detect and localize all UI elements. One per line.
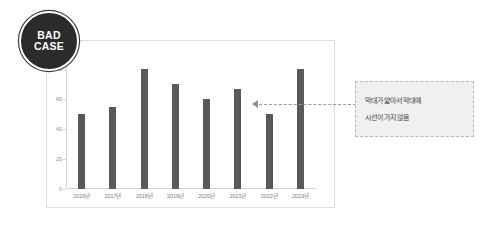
x-tick-label-2018: 2018년 — [129, 192, 160, 200]
bar-2019 — [172, 84, 179, 189]
y-tick-label: 0 — [59, 186, 62, 192]
x-axis-labels: 2016년 2017년 2018년 2019년 2020년 2021년 2022… — [66, 192, 316, 200]
bar-cell — [66, 57, 97, 189]
x-tick-label-2023: 2023년 — [285, 192, 316, 200]
y-tick-label: 40 — [56, 126, 62, 132]
annotation-callout: 막대가 얇아서 막대에 시선이 가지 않음 — [355, 81, 474, 137]
x-tick-label-2017: 2017년 — [97, 192, 128, 200]
x-tick-label-2020: 2020년 — [191, 192, 222, 200]
bar-2018 — [141, 69, 148, 189]
x-tick-label-2016: 2016년 — [66, 192, 97, 200]
bar-cell — [97, 57, 128, 189]
bar-2017 — [109, 107, 116, 190]
annotation-line-1: 막대가 얇아서 막대에 — [365, 92, 473, 109]
bar-cell — [285, 57, 316, 189]
bar-2016 — [78, 114, 85, 189]
slide-canvas: 80 60 40 20 0 — [0, 0, 492, 227]
bar-2022 — [266, 114, 273, 189]
annotation-arrow-icon — [252, 100, 258, 108]
bar-cell — [160, 57, 191, 189]
bar-2020 — [203, 99, 210, 189]
badge-line-2: CASE — [34, 41, 64, 52]
bad-case-badge: BAD CASE — [19, 11, 79, 71]
y-tick-label: 20 — [56, 156, 62, 162]
bar-cell — [222, 57, 253, 189]
y-tick-label: 60 — [56, 96, 62, 102]
x-tick-label-2019: 2019년 — [160, 192, 191, 200]
bar-2023 — [297, 69, 304, 189]
annotation-leader-line — [259, 104, 356, 106]
x-tick-label-2021: 2021년 — [222, 192, 253, 200]
bar-cell — [191, 57, 222, 189]
y-axis-labels: 80 60 40 20 0 — [46, 57, 66, 189]
bar-cell — [129, 57, 160, 189]
bar-cell — [254, 57, 285, 189]
plot-area — [66, 57, 316, 189]
bar-series — [66, 57, 316, 189]
bar-2021 — [234, 89, 241, 189]
x-tick-label-2022: 2022년 — [254, 192, 285, 200]
annotation-line-2: 시선이 가지 않음 — [365, 109, 473, 126]
